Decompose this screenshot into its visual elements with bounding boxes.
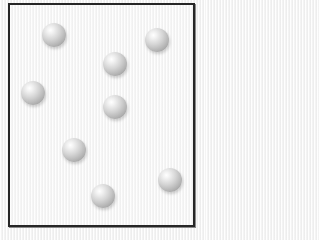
particle-sphere	[103, 95, 127, 119]
particle-sphere	[21, 81, 45, 105]
particle-sphere	[158, 168, 182, 192]
particle-sphere	[42, 23, 66, 47]
particle-sphere	[62, 138, 86, 162]
particle-sphere	[91, 184, 115, 208]
particle-sphere	[145, 28, 169, 52]
particle-sphere	[103, 52, 127, 76]
